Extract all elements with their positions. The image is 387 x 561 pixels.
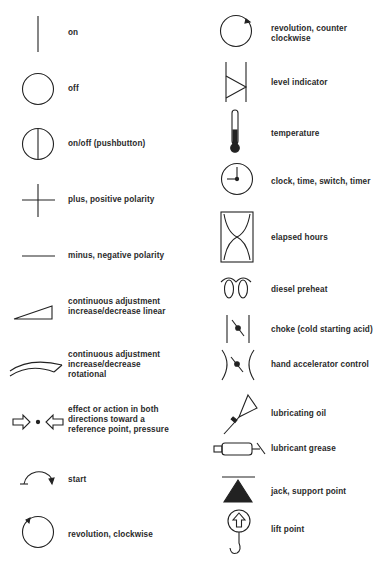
label-start: start [68, 475, 86, 485]
diesel-preheat-icon [218, 276, 258, 302]
level-indicator-icon [220, 60, 260, 104]
label-choke: choke (cold starting acid) [271, 325, 373, 335]
minus-icon [20, 246, 60, 266]
clock-icon [219, 162, 259, 198]
label-hand-accelerator: hand accelerator control [271, 360, 369, 370]
bidirectional-arrows-icon [11, 412, 67, 432]
label-revolution-counter-clockwise: revolution, counter clockwise [271, 24, 347, 44]
label-elapsed-hours: elapsed hours [271, 233, 328, 243]
jack-icon [219, 474, 259, 504]
start-icon [16, 466, 60, 488]
label-jack: jack, support point [271, 487, 346, 497]
grease-gun-icon [212, 440, 270, 458]
hand-accelerator-icon [218, 348, 258, 382]
lift-hook-icon [224, 508, 256, 558]
label-diesel-preheat: diesel preheat [271, 285, 327, 295]
label-temperature: temperature [271, 129, 319, 139]
rotational-adjustment-icon [8, 350, 64, 380]
label-on: on [68, 28, 78, 38]
label-lubricating-oil: lubricating oil [271, 409, 326, 419]
label-clock: clock, time, switch, timer [271, 177, 371, 187]
label-minus: minus, negative polarity [68, 251, 164, 261]
label-lubricant-grease: lubricant grease [271, 444, 336, 454]
label-on-off-pushbutton: on/off (pushbutton) [68, 139, 145, 149]
label-bidirectional-action: effect or action in both directions towa… [68, 405, 169, 435]
label-plus: plus, positive polarity [68, 195, 154, 205]
label-rotational-adjustment: continuous adjustment increase/decrease … [68, 350, 160, 380]
label-revolution-clockwise: revolution, clockwise [68, 530, 153, 540]
hourglass-icon [219, 210, 259, 266]
label-lift-point: lift point [271, 525, 304, 535]
on-off-pushbutton-icon [20, 127, 60, 163]
plus-icon [20, 182, 60, 218]
on-icon [20, 14, 60, 54]
label-linear-adjustment: continuous adjustment increase/decrease … [68, 297, 166, 317]
oil-can-icon [218, 392, 262, 436]
revolution-clockwise-icon [20, 515, 60, 551]
label-off: off [68, 84, 79, 94]
thermometer-icon [228, 108, 248, 158]
linear-adjustment-icon [12, 300, 58, 324]
choke-icon [222, 312, 256, 346]
revolution-counter-clockwise-icon [218, 14, 258, 50]
off-icon [20, 72, 60, 108]
label-level-indicator: level indicator [271, 78, 328, 88]
